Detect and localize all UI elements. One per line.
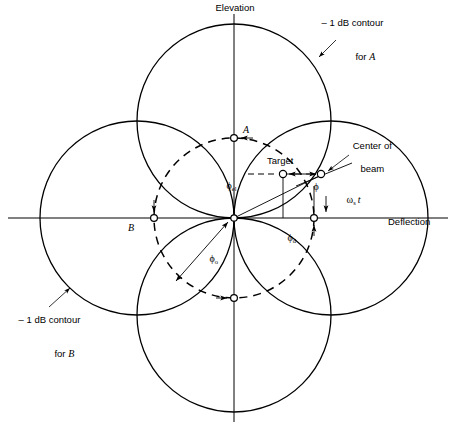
conical-scan-figure: Elevation Deflection – 1 dB contour for …: [0, 0, 453, 427]
elevation-axis-label: Elevation: [205, 2, 265, 14]
phi-symbol: ϕ: [314, 181, 319, 192]
contour-b-note-prefix: for: [54, 348, 68, 359]
phi-el-label: ϕel: [216, 168, 237, 205]
point-right: [311, 215, 318, 222]
point-b-label: B: [128, 222, 134, 234]
deflection-axis-label: Deflection: [388, 216, 430, 228]
phi-el-subscript: el: [232, 184, 237, 191]
point-target: [279, 170, 286, 177]
phi-o-label: ϕo: [199, 241, 218, 278]
point-bottom: [231, 295, 238, 302]
phi-label: ϕ: [303, 169, 319, 204]
point-a-label: A: [243, 124, 249, 136]
center-of-beam-line2: beam: [360, 163, 384, 174]
omega-time-symbol: t: [356, 194, 361, 205]
contour-b-note-line1: – 1 dB contour: [19, 314, 81, 325]
target-label: Target: [267, 155, 293, 167]
point-a: [231, 135, 238, 142]
point-origin: [231, 215, 237, 221]
center-of-beam-line1: Center of: [353, 140, 392, 151]
omega-s-t-label: ωst: [336, 182, 360, 219]
contour-b-note-symbol: B: [68, 348, 74, 359]
phi-o-subscript: o: [215, 257, 218, 264]
contour-b-note: – 1 dB contour for B: [8, 302, 80, 383]
contour-a-note: – 1 dB contour for A: [311, 5, 383, 86]
center-of-beam-note: Center of beam: [331, 128, 403, 186]
contour-a-note-line1: – 1 dB contour: [322, 17, 384, 28]
contour-a-note-prefix: for: [355, 51, 369, 62]
phi-d-subscript: d: [293, 236, 296, 243]
contour-a-note-symbol: A: [369, 51, 375, 62]
phi-d-label: ϕd: [277, 220, 296, 257]
point-b: [151, 215, 158, 222]
